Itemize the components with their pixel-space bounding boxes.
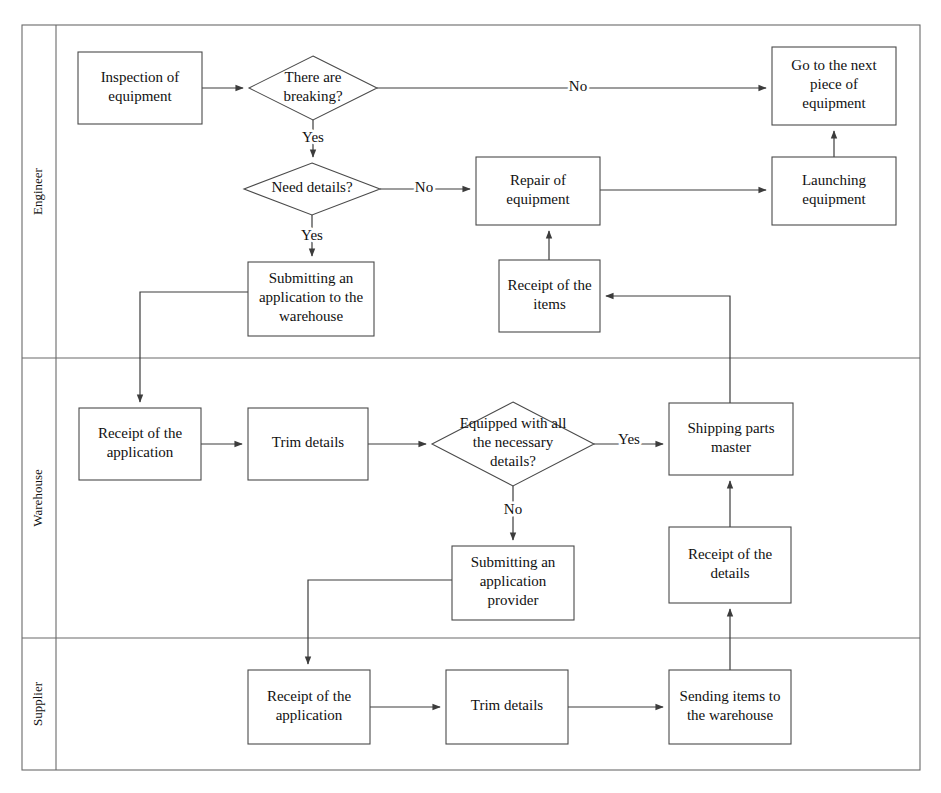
lane-label-warehouse: Warehouse (30, 469, 45, 527)
node-wh-trim-details[interactable]: Trim details (248, 408, 368, 480)
node-label-line: equipment (802, 95, 866, 111)
node-repair-of-equipment[interactable]: Repair ofequipment (476, 157, 600, 225)
node-label-line: equipment (506, 191, 570, 207)
node-shipping-parts-master[interactable]: Shipping partsmaster (669, 403, 793, 475)
node-sp-receipt-of-application[interactable]: Receipt of theapplication (248, 670, 370, 744)
flow-nodes: Inspection ofequipmentThere arebreaking?… (78, 47, 896, 744)
node-inspection[interactable]: Inspection ofequipment (78, 52, 202, 124)
node-label-line: application (480, 573, 547, 589)
node-label-line: Submitting an (269, 270, 354, 286)
node-label-line: application (107, 444, 174, 460)
diagram-outer-frame (22, 25, 920, 770)
edge-label-e-breaking-yes-to-need-details: Yes (302, 129, 324, 145)
node-label-line: application (276, 707, 343, 723)
node-need-details[interactable]: Need details? (244, 163, 380, 215)
node-label-line: Shipping parts (687, 420, 774, 436)
node-label-line: Receipt of the (507, 277, 591, 293)
node-label-line: warehouse (279, 308, 343, 324)
node-wh-receipt-of-application[interactable]: Receipt of theapplication (79, 408, 201, 480)
node-sending-items-to-warehouse[interactable]: Sending items tothe warehouse (669, 670, 791, 744)
node-label-line: application to the (259, 289, 363, 305)
edge-label-e-breaking-no-to-next: No (569, 78, 587, 94)
node-label-line: Inspection of (101, 69, 180, 85)
node-label-line: the necessary (473, 434, 554, 450)
swimlane-diagram: EngineerWarehouseSupplier Inspection ofe… (0, 0, 941, 793)
node-label-line: Trim details (272, 434, 345, 450)
node-label-line: the warehouse (687, 707, 774, 723)
node-label-line: Repair of (510, 172, 566, 188)
edge-label-e-equipped-yes-to-shipping: Yes (618, 431, 640, 447)
lane-label-supplier: Supplier (30, 681, 45, 726)
edge-label-e-equipped-no-to-provider: No (504, 501, 522, 517)
node-label-line: There are (284, 69, 341, 85)
node-sp-trim-details[interactable]: Trim details (446, 670, 568, 744)
lane-labels: EngineerWarehouseSupplier (30, 167, 45, 726)
node-label-line: Launching (802, 172, 867, 188)
node-label-line: Go to the next (791, 57, 877, 73)
node-label-line: Sending items to (680, 688, 781, 704)
edge-label-e-need-details-no-to-repair: No (415, 179, 433, 195)
connector-e-provider-to-sp-receipt (308, 580, 452, 664)
node-submitting-application-provider[interactable]: Submitting anapplicationprovider (452, 546, 574, 620)
node-label-line: items (533, 296, 566, 312)
node-label-line: Need details? (271, 179, 353, 195)
node-label-line: Equipped with all (460, 415, 567, 431)
node-wh-receipt-of-details[interactable]: Receipt of thedetails (669, 527, 791, 603)
lane-label-engineer: Engineer (30, 167, 45, 215)
node-label-line: Trim details (471, 697, 544, 713)
flowchart-canvas: EngineerWarehouseSupplier Inspection ofe… (0, 0, 941, 793)
node-label-line: equipment (802, 191, 866, 207)
lane-frame (22, 25, 920, 770)
node-label-line: Receipt of the (688, 546, 772, 562)
node-equipped-with-details[interactable]: Equipped with allthe necessarydetails? (432, 402, 594, 486)
node-label-line: Submitting an (471, 554, 556, 570)
connector-e-submitting-to-wh-receipt (140, 292, 248, 402)
node-submitting-application-warehouse[interactable]: Submitting anapplication to thewarehouse (248, 262, 374, 336)
node-label-line: breaking? (283, 88, 342, 104)
node-there-are-breaking[interactable]: There arebreaking? (249, 56, 377, 120)
node-label-line: piece of (810, 76, 858, 92)
node-launching-equipment[interactable]: Launchingequipment (772, 157, 896, 225)
node-label-line: details? (490, 453, 536, 469)
edge-label-e-need-details-yes-to-submitting: Yes (301, 227, 323, 243)
node-receipt-of-items[interactable]: Receipt of theitems (499, 260, 600, 332)
node-label-line: master (711, 439, 751, 455)
node-label-line: Receipt of the (267, 688, 351, 704)
node-label-line: provider (488, 592, 539, 608)
node-label-line: Receipt of the (98, 425, 182, 441)
node-go-to-next-equipment[interactable]: Go to the nextpiece ofequipment (772, 47, 896, 125)
node-label-line: details (710, 565, 749, 581)
node-label-line: equipment (108, 88, 172, 104)
